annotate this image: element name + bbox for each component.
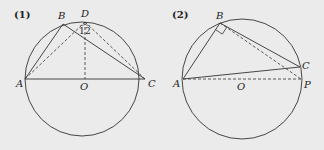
- figure-1-label: (1): [14, 9, 30, 20]
- figure-1: (1) A B C D O 1 2: [14, 8, 156, 136]
- figure-2: (2) A B C P O: [172, 9, 311, 139]
- segment-DC: [85, 22, 145, 79]
- point-label-B: B: [57, 10, 65, 21]
- segment-BC: [220, 23, 300, 67]
- right-angle-marker-B: [216, 27, 227, 34]
- figure-2-label: (2): [172, 9, 188, 20]
- point-label-A: A: [172, 78, 180, 89]
- point-label-C: C: [302, 60, 310, 71]
- point-label-C: C: [148, 78, 156, 89]
- segment-BC: [63, 24, 145, 79]
- segment-AD: [25, 22, 85, 79]
- point-label-P: P: [303, 79, 311, 90]
- point-label-A: A: [15, 78, 23, 89]
- angle-label-1: 1: [79, 26, 85, 36]
- segment-AC: [183, 67, 300, 79]
- point-label-O: O: [237, 81, 245, 92]
- point-label-O: O: [80, 81, 88, 92]
- angle-label-2: 2: [85, 26, 91, 36]
- segment-AB: [25, 24, 63, 79]
- point-label-B: B: [215, 10, 223, 21]
- geometry-diagram: (1) A B C D O 1 2 (2) A: [0, 0, 324, 150]
- point-label-D: D: [80, 8, 89, 19]
